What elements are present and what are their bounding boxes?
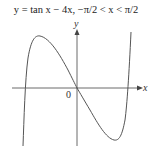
y-axis-arrow-icon (75, 29, 80, 35)
y-axis-label: y (74, 18, 78, 29)
x-axis-label: x (143, 82, 147, 93)
origin-label: 0 (66, 89, 71, 100)
